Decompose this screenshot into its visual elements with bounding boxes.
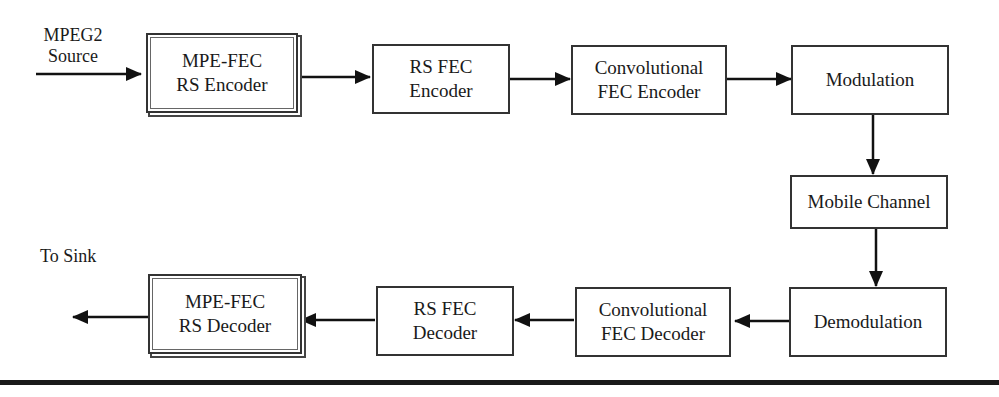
sink-label: To Sink xyxy=(40,246,96,267)
block-label: RS FEC xyxy=(410,55,473,79)
block-label: MPE-FEC xyxy=(185,290,265,314)
source-label-line2: Source xyxy=(32,46,114,67)
source-label-line1: MPEG2 xyxy=(32,25,114,46)
block-label: FEC Encoder xyxy=(598,80,701,104)
source-label: MPEG2 Source xyxy=(32,25,114,67)
block-label: Decoder xyxy=(413,321,477,345)
convolutional-fec-encoder-block: Convolutional FEC Encoder xyxy=(571,45,727,115)
block-label: Convolutional xyxy=(595,56,704,80)
rs-fec-encoder-block: RS FEC Encoder xyxy=(372,44,510,114)
bottom-rule xyxy=(0,380,999,385)
mpe-fec-rs-decoder-block: MPE-FEC RS Decoder xyxy=(148,274,302,354)
mpe-fec-rs-encoder-block: MPE-FEC RS Encoder xyxy=(146,33,298,113)
rs-fec-decoder-block: RS FEC Decoder xyxy=(376,286,514,356)
mobile-channel-block: Mobile Channel xyxy=(790,175,948,229)
block-label: Mobile Channel xyxy=(808,190,931,214)
block-label: Convolutional xyxy=(599,298,708,322)
block-label: RS FEC xyxy=(414,297,477,321)
block-label: Modulation xyxy=(826,68,915,92)
convolutional-fec-decoder-block: Convolutional FEC Decoder xyxy=(575,287,731,357)
demodulation-block: Demodulation xyxy=(789,287,947,357)
block-label: FEC Decoder xyxy=(601,322,705,346)
block-label: MPE-FEC xyxy=(182,49,262,73)
block-label: Demodulation xyxy=(814,310,923,334)
block-label: RS Encoder xyxy=(176,73,267,97)
modulation-block: Modulation xyxy=(791,45,949,115)
block-label: RS Decoder xyxy=(179,314,271,338)
block-label: Encoder xyxy=(409,79,472,103)
